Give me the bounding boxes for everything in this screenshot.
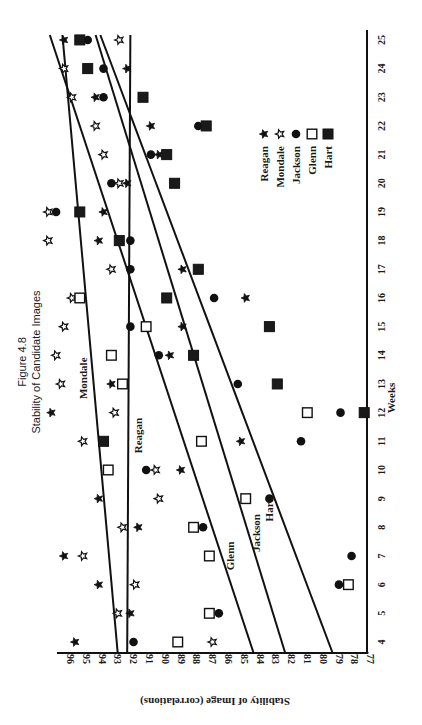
data-point-hart <box>162 293 172 303</box>
data-point-jackson <box>155 351 164 360</box>
series-reagan <box>47 36 250 647</box>
data-point-hart <box>75 207 85 217</box>
data-point-jackson <box>52 208 61 217</box>
y-tick-label: .87 <box>207 652 218 665</box>
y-tick-label: .83 <box>270 652 281 665</box>
data-point-jackson <box>126 322 135 331</box>
x-tick-label: 6 <box>376 582 387 587</box>
chart-canvas: Figure 4.8Stability of Candidate Images … <box>0 0 422 725</box>
data-point-mondale <box>208 638 216 647</box>
data-point-jackson <box>335 580 344 589</box>
data-point-mondale <box>154 494 162 503</box>
data-point-reagan <box>94 236 102 245</box>
y-tick-label: .79 <box>334 652 345 665</box>
x-tick-label: 11 <box>376 437 387 446</box>
chart-figure: Figure 4.8Stability of Candidate Images … <box>0 0 422 725</box>
data-point-mondale <box>131 580 139 589</box>
data-point-glenn <box>205 551 215 561</box>
data-point-hart <box>189 350 199 360</box>
data-point-jackson <box>265 494 274 503</box>
data-point-mondale <box>107 265 115 274</box>
x-tick-label: 25 <box>376 35 387 45</box>
x-tick-label: 8 <box>376 525 387 530</box>
data-point-reagan <box>236 437 244 446</box>
data-point-jackson <box>210 294 219 303</box>
data-point-reagan <box>94 580 102 589</box>
data-point-jackson <box>142 466 151 475</box>
data-point-hart <box>138 92 148 102</box>
data-point-glenn <box>344 580 354 590</box>
x-tick-label: 18 <box>376 236 387 246</box>
data-point-jackson <box>126 265 135 274</box>
data-point-mondale <box>56 380 64 389</box>
data-point-mondale <box>78 437 86 446</box>
data-point-reagan <box>241 294 249 303</box>
x-tick-label: 23 <box>376 92 387 102</box>
legend-label-reagan: Reagan <box>258 146 270 181</box>
y-tick-label: .78 <box>349 652 360 665</box>
x-tick-label: 15 <box>376 322 387 332</box>
data-point-hart <box>272 379 282 389</box>
data-point-mondale <box>151 466 159 475</box>
data-point-reagan <box>134 523 142 532</box>
data-point-glenn <box>189 523 199 533</box>
data-point-jackson <box>129 638 138 647</box>
y-tick-label: .91 <box>144 652 155 665</box>
data-point-reagan <box>176 466 184 475</box>
y-tick-label: .89 <box>176 652 187 665</box>
x-tick-label: 5 <box>376 611 387 616</box>
data-point-hart <box>170 178 180 188</box>
x-tick-label: 21 <box>376 150 387 160</box>
y-tick-label: .77 <box>365 652 376 665</box>
y-tick-label: .88 <box>191 652 202 665</box>
data-point-jackson <box>297 437 306 446</box>
data-point-mondale <box>118 523 126 532</box>
data-point-mondale <box>44 208 52 217</box>
legend: ReaganMondaleJacksonGlennHart <box>258 129 334 188</box>
data-points <box>44 35 370 647</box>
figure-caption: Stability of Candidate Images <box>30 290 42 434</box>
data-point-mondale <box>44 236 52 245</box>
data-point-hart <box>264 322 274 332</box>
y-axis-title: Stability of Image (correlations) <box>140 695 290 708</box>
y-tick-label: .85 <box>239 652 250 665</box>
data-point-reagan <box>165 351 173 360</box>
y-tick-label: .86 <box>223 652 234 665</box>
figure-title: Figure 4.8Stability of Candidate Images <box>16 290 42 434</box>
data-point-jackson <box>347 552 356 561</box>
trend-label-reagan: Reagan <box>132 418 144 453</box>
y-tick-label: .95 <box>81 652 92 665</box>
data-point-mondale <box>52 351 60 360</box>
data-point-reagan <box>59 552 67 561</box>
data-point-mondale <box>115 36 123 45</box>
data-point-glenn <box>118 379 128 389</box>
data-point-mondale <box>91 122 99 131</box>
data-point-mondale <box>115 179 123 188</box>
data-point-hart <box>83 64 93 74</box>
data-point-reagan <box>70 638 78 647</box>
data-point-jackson <box>234 380 243 389</box>
x-tick-label: 10 <box>376 465 387 475</box>
legend-label-hart: Hart <box>322 146 334 169</box>
x-tick-label: 24 <box>376 64 387 74</box>
data-point-glenn <box>241 494 251 504</box>
data-point-jackson <box>99 64 108 73</box>
trend-label-mondale: Mondale <box>77 357 89 399</box>
data-point-reagan <box>59 36 67 45</box>
data-point-reagan <box>107 380 115 389</box>
data-point-glenn <box>107 351 117 361</box>
data-point-reagan <box>178 265 186 274</box>
y-tick-label: .84 <box>255 652 266 665</box>
x-tick-label: 16 <box>376 293 387 303</box>
data-point-hart <box>162 150 172 160</box>
data-point-jackson <box>147 150 156 159</box>
x-axis-title: Weeks <box>385 382 397 413</box>
x-tick-label: 20 <box>376 178 387 188</box>
legend-label-jackson: Jackson <box>290 146 302 184</box>
data-point-jackson <box>126 236 135 245</box>
data-point-jackson <box>107 179 116 188</box>
data-point-glenn <box>303 408 313 418</box>
y-tick-label: .82 <box>286 652 297 665</box>
y-tick-label: .93 <box>112 652 123 665</box>
legend-marker-jackson <box>292 130 301 139</box>
